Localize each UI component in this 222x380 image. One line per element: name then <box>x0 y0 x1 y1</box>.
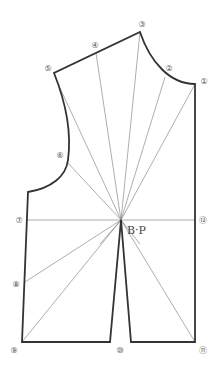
ray-to-3 <box>121 32 140 220</box>
point-labels: ① ② ③ ④ ⑤ ⑥ ⑦ ⑧ ⑨ ⑩ ⑪ ⑫ B·P <box>10 20 207 355</box>
bust-point-label: B·P <box>127 224 147 237</box>
label-point-8: ⑧ <box>12 280 19 289</box>
label-point-3: ③ <box>138 20 145 29</box>
label-point-11: ⑪ <box>199 346 207 355</box>
label-point-12: ⑫ <box>199 216 207 225</box>
ray-to-dart-a <box>100 220 121 244</box>
ray-to-9 <box>22 220 121 342</box>
label-point-9: ⑨ <box>10 346 17 355</box>
label-point-7: ⑦ <box>15 216 22 225</box>
bodice-pattern-diagram: ① ② ③ ④ ⑤ ⑥ ⑦ ⑧ ⑨ ⑩ ⑪ ⑫ B·P <box>0 0 222 380</box>
ray-to-8 <box>25 220 121 282</box>
label-point-2: ② <box>165 64 172 73</box>
ray-to-2 <box>121 77 165 220</box>
label-point-6: ⑥ <box>56 151 63 160</box>
ray-to-6 <box>67 162 121 220</box>
bodice-outline <box>22 32 195 342</box>
ray-to-11 <box>121 220 195 342</box>
label-point-1: ① <box>200 77 207 86</box>
label-point-5: ⑤ <box>44 64 51 73</box>
ray-to-1 <box>121 84 195 220</box>
label-point-10: ⑩ <box>116 346 123 355</box>
label-point-4: ④ <box>91 41 98 50</box>
radiating-lines <box>22 32 195 342</box>
ray-to-4 <box>96 53 121 220</box>
